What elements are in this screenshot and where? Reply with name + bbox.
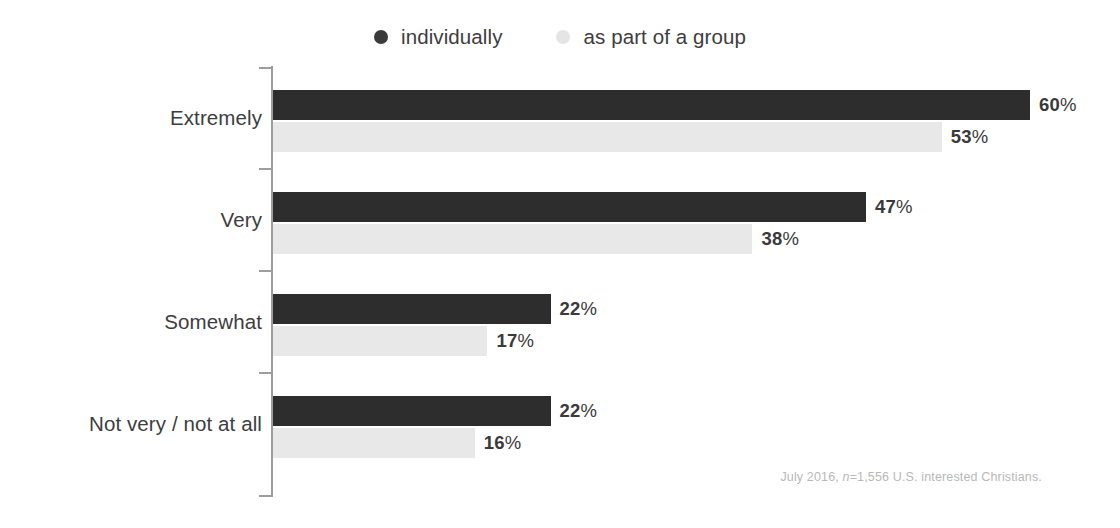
axis-tick bbox=[259, 168, 271, 170]
footnote-suffix: =1,556 U.S. interested Christians. bbox=[850, 470, 1042, 484]
bar-as-part-of-a-group bbox=[273, 122, 942, 152]
bar-value-label: 60% bbox=[1039, 94, 1077, 116]
bar-row-individually: 60% bbox=[273, 90, 1077, 120]
bar-value-label: 53% bbox=[951, 126, 989, 148]
axis-tick bbox=[259, 270, 271, 272]
bar-value-label: 22% bbox=[560, 400, 598, 422]
footnote-n: n bbox=[843, 470, 850, 484]
bar-value-label: 47% bbox=[875, 196, 913, 218]
bar-value-label: 22% bbox=[560, 298, 598, 320]
bar-row-as-part-of-a-group: 16% bbox=[273, 428, 522, 458]
category-label: Somewhat bbox=[0, 310, 262, 334]
bar-value-label: 38% bbox=[761, 228, 799, 250]
bar-row-individually: 22% bbox=[273, 294, 597, 324]
category-label: Not very / not at all bbox=[0, 412, 262, 436]
bar-row-as-part-of-a-group: 38% bbox=[273, 224, 799, 254]
bar-row-as-part-of-a-group: 53% bbox=[273, 122, 988, 152]
bar-value-label: 17% bbox=[496, 330, 534, 352]
axis-tick bbox=[259, 372, 271, 374]
category-label: Very bbox=[0, 208, 262, 232]
bar-row-individually: 22% bbox=[273, 396, 597, 426]
bar-value-label: 16% bbox=[484, 432, 522, 454]
category-label: Extremely bbox=[0, 106, 262, 130]
bar-row-as-part-of-a-group: 17% bbox=[273, 326, 534, 356]
source-footnote: July 2016, n=1,556 U.S. interested Chris… bbox=[780, 470, 1042, 484]
bar-as-part-of-a-group bbox=[273, 224, 752, 254]
axis-tick bbox=[259, 67, 271, 69]
bar-individually bbox=[273, 90, 1030, 120]
bar-chart-plot-area: Extremely 60% 53% Very 47% 38% Somewhat … bbox=[0, 0, 1120, 528]
bar-row-individually: 47% bbox=[273, 192, 913, 222]
bar-individually bbox=[273, 294, 551, 324]
bar-as-part-of-a-group bbox=[273, 326, 487, 356]
bar-individually bbox=[273, 192, 866, 222]
axis-tick bbox=[259, 495, 271, 497]
bar-as-part-of-a-group bbox=[273, 428, 475, 458]
bar-individually bbox=[273, 396, 551, 426]
footnote-prefix: July 2016, bbox=[780, 470, 842, 484]
